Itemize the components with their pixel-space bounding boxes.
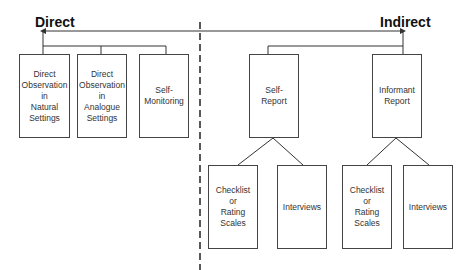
box-label: Checklist or Rating Scales bbox=[214, 185, 252, 229]
box-informant-interviews: Interviews bbox=[403, 165, 453, 249]
box-label: Informant Report bbox=[377, 85, 417, 107]
box-self-report-interviews: Interviews bbox=[277, 165, 327, 249]
direct-heading: Direct bbox=[35, 14, 75, 30]
box-self-report: Self- Report bbox=[249, 54, 299, 138]
box-informant-checklist: Checklist or Rating Scales bbox=[342, 165, 392, 249]
box-label: Interviews bbox=[407, 202, 449, 213]
indirect-heading: Indirect bbox=[380, 14, 431, 30]
box-self-report-checklist: Checklist or Rating Scales bbox=[208, 165, 258, 249]
box-label: Self- Report bbox=[259, 85, 289, 107]
box-direct-observation-analogue: Direct Observation in Analogue Settings bbox=[77, 54, 127, 138]
box-label: Direct Observation in Analogue Settings bbox=[77, 69, 127, 124]
box-label: Direct Observation in Natural Settings bbox=[20, 69, 70, 124]
box-self-monitoring: Self- Monitoring bbox=[139, 54, 189, 138]
box-label: Checklist or Rating Scales bbox=[348, 185, 386, 229]
box-informant-report: Informant Report bbox=[372, 54, 422, 138]
box-label: Self- Monitoring bbox=[142, 85, 186, 107]
box-direct-observation-natural: Direct Observation in Natural Settings bbox=[19, 54, 70, 138]
box-label: Interviews bbox=[281, 202, 323, 213]
